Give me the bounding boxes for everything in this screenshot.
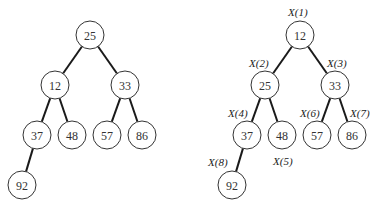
node-value: 48 [66, 129, 78, 143]
node-value: 25 [259, 79, 271, 93]
tree-node: 37 [23, 121, 51, 149]
node-value: 37 [31, 129, 43, 143]
tree-node: 12 [41, 71, 69, 99]
array-index-label: X(8) [207, 156, 228, 169]
tree-edge [98, 46, 117, 73]
tree-edge [252, 98, 261, 122]
tree-edge [112, 98, 121, 122]
node-value: 37 [241, 129, 253, 143]
array-index-label: X(5) [272, 155, 293, 168]
tree-node: 57 [303, 121, 331, 149]
tree-edge [26, 148, 33, 171]
tree-node: 57 [93, 121, 121, 149]
array-index-label: X(7) [349, 107, 370, 120]
heap-diagram: 25123337485786921225333748578692 X(1)X(2… [0, 0, 380, 210]
array-index-label: X(4) [227, 107, 248, 120]
tree-edge [42, 98, 51, 122]
node-value: 86 [136, 129, 148, 143]
node-value: 25 [84, 29, 96, 43]
node-value: 12 [294, 29, 306, 43]
node-value: 33 [119, 79, 131, 93]
tree-edge [130, 98, 138, 121]
tree-node: 86 [128, 121, 156, 149]
array-index-label: X(2) [248, 57, 269, 70]
array-index-label: X(3) [326, 57, 347, 70]
tree-node: 48 [58, 121, 86, 149]
tree-edge [270, 98, 278, 121]
node-value: 12 [49, 79, 61, 93]
tree-edge [60, 98, 68, 121]
tree-edge [340, 98, 348, 121]
tree-node: 86 [338, 121, 366, 149]
node-value: 57 [101, 129, 113, 143]
tree-edge [273, 46, 292, 73]
node-value: 48 [276, 129, 288, 143]
tree-node: 33 [111, 71, 139, 99]
node-value: 92 [226, 179, 238, 193]
tree-node: 25 [251, 71, 279, 99]
tree-node: 25 [76, 21, 104, 49]
tree-node: 37 [233, 121, 261, 149]
tree-node: 92 [218, 171, 246, 199]
tree-node: 33 [321, 71, 349, 99]
tree-node: 92 [8, 171, 36, 199]
node-value: 57 [311, 129, 323, 143]
node-value: 92 [16, 179, 28, 193]
array-index-label: X(6) [299, 107, 320, 120]
tree-edge [63, 46, 82, 73]
tree-node: 12 [286, 21, 314, 49]
tree-edge [236, 148, 243, 171]
tree-node: 48 [268, 121, 296, 149]
node-value: 86 [346, 129, 358, 143]
tree-edge [308, 46, 327, 73]
tree-edge [322, 98, 331, 122]
array-index-label: X(1) [287, 6, 308, 19]
node-value: 33 [329, 79, 341, 93]
